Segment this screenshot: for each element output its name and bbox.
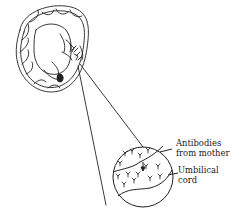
label-antibodies-line1: Antibodies: [176, 138, 229, 148]
label-antibodies-line2: from mother: [176, 148, 229, 158]
antibody-icons: [116, 148, 162, 187]
magnified-cord-circle: [113, 146, 178, 207]
label-umbilical-line2: cord: [178, 175, 219, 185]
uterus-fetus-illustration: [16, 6, 143, 205]
label-umbilical-line1: Umbilical: [178, 165, 219, 175]
label-antibodies: Antibodies from mother: [176, 138, 229, 158]
label-umbilical-cord: Umbilical cord: [178, 165, 219, 185]
